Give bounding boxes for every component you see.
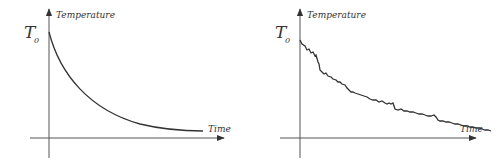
x-axis-label: Time <box>208 124 231 134</box>
y-axis-label: Temperature <box>56 10 115 20</box>
panel-noisy: Temperature Time T 0 <box>275 9 491 158</box>
noisy-decay-curve <box>300 40 491 131</box>
panel-smooth: Temperature Time T 0 <box>24 9 231 158</box>
smooth-decay-curve <box>49 32 203 131</box>
t0-subscript: 0 <box>285 36 290 45</box>
diagram-canvas: Temperature Time T 0 Temperature Time T … <box>0 0 503 165</box>
y-axis-label: Temperature <box>307 10 366 20</box>
t0-subscript: 0 <box>34 36 39 45</box>
